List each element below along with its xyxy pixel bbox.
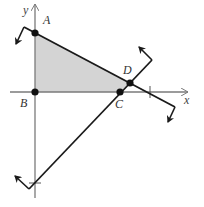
label-C: C: [115, 97, 124, 111]
label-x-axis: x: [183, 93, 190, 107]
point-B: [31, 88, 38, 95]
geometry-diagram: A B C D x y: [0, 0, 204, 207]
line-AD-right-arrow: [168, 107, 175, 122]
point-C: [116, 88, 123, 95]
line-AD-left-arrow: [16, 27, 24, 44]
shaded-region: [35, 33, 130, 92]
line-CD-lower-arrow: [15, 176, 29, 189]
label-B: B: [20, 96, 28, 110]
line-CD-upper-arrow: [139, 47, 152, 60]
label-A: A: [42, 13, 51, 27]
point-D: [126, 79, 133, 86]
label-y-axis: y: [22, 3, 29, 17]
label-D: D: [122, 63, 132, 77]
point-A: [31, 29, 38, 36]
